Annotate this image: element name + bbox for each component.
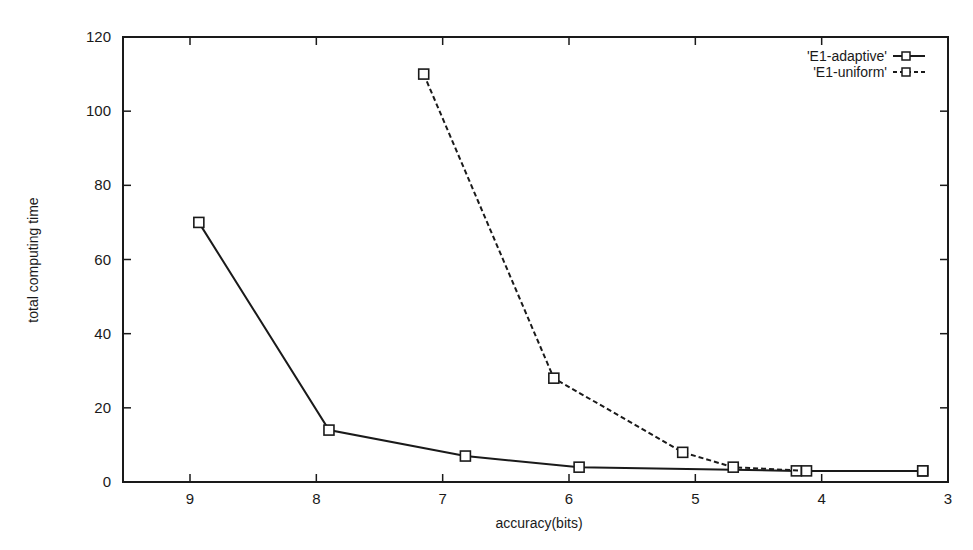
legend-square-marker (902, 68, 910, 76)
plot-border (123, 37, 948, 482)
x-tick-label: 9 (186, 490, 194, 507)
data-point-square-marker (460, 451, 470, 461)
x-axis-label: accuracy(bits) (495, 515, 582, 531)
data-point-square-marker (574, 462, 584, 472)
chart: 020406080100120 9876543 accuracy(bits) t… (0, 0, 973, 550)
series-uniform (419, 69, 928, 476)
data-point-square-marker (802, 466, 812, 476)
y-axis: 020406080100120 (86, 28, 948, 490)
data-point-square-marker (918, 466, 928, 476)
x-tick-label: 7 (438, 490, 446, 507)
y-tick-label: 60 (94, 251, 111, 268)
series-layer (194, 69, 928, 476)
series-adaptive (194, 217, 928, 475)
y-axis-label: total computing time (25, 197, 41, 322)
data-point-square-marker (324, 425, 334, 435)
data-point-square-marker (194, 217, 204, 227)
data-point-square-marker (419, 69, 429, 79)
x-tick-label: 6 (565, 490, 573, 507)
series-line (424, 74, 923, 471)
y-tick-label: 20 (94, 399, 111, 416)
x-tick-label: 4 (817, 490, 825, 507)
y-tick-label: 80 (94, 176, 111, 193)
x-axis: 9876543 (186, 37, 952, 507)
legend-label: 'E1-adaptive' (807, 48, 887, 64)
data-point-square-marker (728, 462, 738, 472)
x-tick-label: 8 (312, 490, 320, 507)
data-point-square-marker (549, 373, 559, 383)
x-tick-label: 5 (691, 490, 699, 507)
y-tick-label: 40 (94, 325, 111, 342)
plot-frame (123, 37, 948, 482)
y-tick-label: 100 (86, 102, 111, 119)
y-tick-label: 120 (86, 28, 111, 45)
legend: 'E1-adaptive''E1-uniform' (807, 48, 925, 80)
x-tick-label: 3 (944, 490, 952, 507)
legend-label: 'E1-uniform' (813, 64, 887, 80)
y-tick-label: 0 (103, 473, 111, 490)
legend-square-marker (902, 52, 910, 60)
series-line (199, 222, 923, 471)
data-point-square-marker (678, 447, 688, 457)
